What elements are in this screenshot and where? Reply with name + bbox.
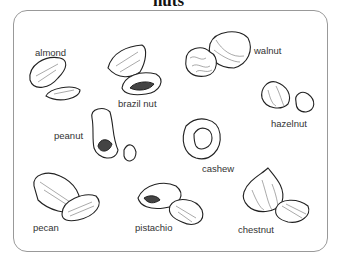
label-walnut: walnut [254,45,281,56]
label-pecan: pecan [33,222,59,233]
cashew-illustration [183,119,220,159]
label-brazil-nut: brazil nut [118,98,157,109]
walnut-illustration [186,32,251,77]
pecan-illustration [34,173,99,221]
label-hazelnut: hazelnut [271,118,307,129]
chestnut-illustration [243,168,309,222]
pistachio-illustration [138,183,203,224]
label-pistachio: pistachio [135,222,173,233]
brazil-nut-illustration [108,45,161,95]
peanut-illustration [92,109,136,161]
label-cashew: cashew [202,163,234,174]
hazelnut-illustration [262,82,314,112]
label-peanut: peanut [54,130,83,141]
label-almond: almond [35,47,66,58]
almond-illustration [30,57,80,99]
label-chestnut: chestnut [238,224,274,235]
